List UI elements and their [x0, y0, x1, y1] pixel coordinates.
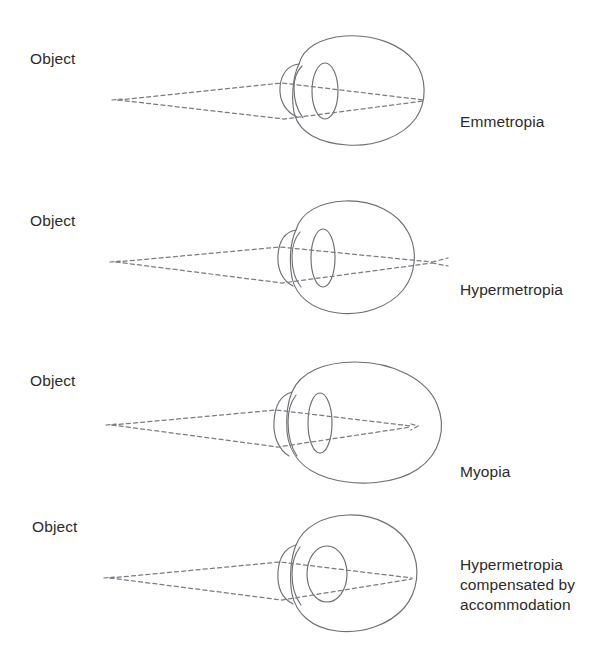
cornea-inner-line — [292, 232, 301, 287]
ray-upper — [116, 247, 432, 262]
eye-diagram-hypermetropia-accommodated — [0, 500, 616, 658]
ray-lower — [112, 425, 411, 447]
eye-diagram-hypermetropia — [0, 170, 616, 340]
cornea-inner-line — [292, 547, 301, 605]
ray-lower — [118, 100, 424, 119]
ray-focus-marker — [411, 424, 418, 430]
cornea-inner-line — [288, 395, 297, 456]
lens-outline — [312, 63, 338, 119]
panel-emmetropia: Object Emmetropia — [0, 0, 616, 170]
panel-hypermetropia-accommodated: Object Hypermetropia compensated by acco… — [0, 500, 616, 658]
ray-lower — [116, 262, 432, 283]
eye-globe-outline — [290, 201, 414, 314]
eye-diagram-emmetropia — [0, 0, 616, 170]
ray-focus-tail-upper — [432, 258, 448, 262]
ray-focus-tail-lower — [432, 263, 448, 266]
eye-globe-outline — [291, 515, 417, 632]
panel-hypermetropia: Object Hypermetropia — [0, 170, 616, 340]
ray-upper — [118, 83, 424, 100]
ray-lower — [110, 578, 412, 600]
eye-diagram-myopia — [0, 340, 616, 510]
lens-outline — [311, 229, 335, 287]
ray-upper — [110, 562, 412, 578]
ray-upper — [112, 410, 411, 426]
lens-outline — [307, 546, 347, 602]
eye-refraction-figure: Object Emmetropia Object Hypermetropia — [0, 0, 616, 658]
panel-myopia: Object Myopia — [0, 340, 616, 510]
eye-globe-outline — [287, 362, 442, 483]
lens-outline — [308, 393, 332, 453]
